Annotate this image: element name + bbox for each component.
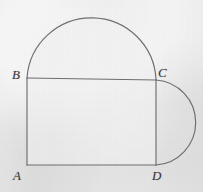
figure-canvas [0, 0, 203, 192]
vertex-label-a: A [13, 169, 21, 182]
vertex-label-d: D [152, 169, 161, 182]
vertex-label-b: B [12, 68, 20, 81]
geometry-figure: A B C D [0, 0, 203, 192]
vertex-label-c: C [158, 66, 167, 79]
semicircle-cd-arc [156, 80, 196, 165]
